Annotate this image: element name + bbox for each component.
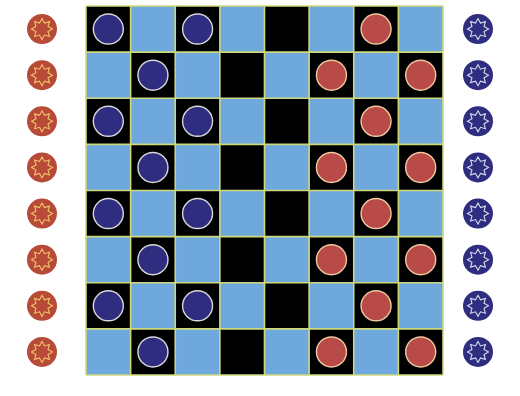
board-square[interactable]: [354, 237, 399, 283]
board-square[interactable]: [175, 237, 220, 283]
board-square[interactable]: [309, 191, 354, 237]
board-square[interactable]: [354, 52, 399, 98]
red-reserve-token[interactable]: [27, 106, 57, 136]
red-piece[interactable]: [316, 152, 346, 182]
board-square[interactable]: [265, 6, 310, 52]
board-square[interactable]: [354, 329, 399, 375]
blue-piece[interactable]: [183, 106, 213, 136]
red-reserve-token[interactable]: [27, 291, 57, 321]
red-reserve-token[interactable]: [27, 245, 57, 275]
game-board: [86, 6, 443, 375]
blue-piece[interactable]: [138, 152, 168, 182]
red-piece[interactable]: [361, 291, 391, 321]
blue-piece[interactable]: [138, 337, 168, 367]
board-square[interactable]: [265, 237, 310, 283]
game-scene: [0, 0, 520, 396]
red-piece[interactable]: [361, 199, 391, 229]
board-square[interactable]: [86, 329, 131, 375]
board-square[interactable]: [175, 52, 220, 98]
board-square[interactable]: [86, 144, 131, 190]
board-square[interactable]: [398, 6, 443, 52]
board-square[interactable]: [86, 237, 131, 283]
red-piece[interactable]: [361, 14, 391, 44]
board-square[interactable]: [309, 6, 354, 52]
red-reserve-token[interactable]: [27, 337, 57, 367]
board-square[interactable]: [86, 52, 131, 98]
red-piece[interactable]: [361, 106, 391, 136]
board-square[interactable]: [220, 283, 265, 329]
blue-piece[interactable]: [93, 199, 123, 229]
red-piece[interactable]: [406, 337, 436, 367]
red-piece[interactable]: [316, 60, 346, 90]
red-piece[interactable]: [316, 337, 346, 367]
board-square[interactable]: [265, 52, 310, 98]
red-piece[interactable]: [406, 245, 436, 275]
board-square[interactable]: [398, 283, 443, 329]
blue-reserve-token[interactable]: [463, 14, 493, 44]
board-square[interactable]: [220, 329, 265, 375]
board-square[interactable]: [175, 144, 220, 190]
blue-reserve-token[interactable]: [463, 291, 493, 321]
board-square[interactable]: [220, 52, 265, 98]
blue-piece[interactable]: [183, 199, 213, 229]
blue-reserve-token[interactable]: [463, 60, 493, 90]
board-square[interactable]: [220, 191, 265, 237]
board-square[interactable]: [398, 98, 443, 144]
blue-piece[interactable]: [183, 291, 213, 321]
board-square[interactable]: [265, 144, 310, 190]
red-piece[interactable]: [406, 60, 436, 90]
red-reserve-token[interactable]: [27, 199, 57, 229]
board-square[interactable]: [265, 98, 310, 144]
board-square[interactable]: [354, 144, 399, 190]
blue-piece[interactable]: [183, 14, 213, 44]
red-reserve-token[interactable]: [27, 14, 57, 44]
blue-piece[interactable]: [138, 245, 168, 275]
board-square[interactable]: [220, 144, 265, 190]
board-square[interactable]: [309, 98, 354, 144]
blue-reserve-token[interactable]: [463, 199, 493, 229]
red-piece[interactable]: [406, 152, 436, 182]
blue-piece[interactable]: [93, 106, 123, 136]
board-square[interactable]: [265, 283, 310, 329]
red-reserve-token[interactable]: [27, 152, 57, 182]
blue-reserve-token[interactable]: [463, 152, 493, 182]
board-square[interactable]: [131, 191, 176, 237]
board-square[interactable]: [220, 237, 265, 283]
board-square[interactable]: [131, 283, 176, 329]
board-square[interactable]: [265, 191, 310, 237]
blue-reserve-token[interactable]: [463, 245, 493, 275]
blue-piece[interactable]: [93, 291, 123, 321]
board-square[interactable]: [220, 6, 265, 52]
board-square[interactable]: [131, 6, 176, 52]
blue-piece[interactable]: [93, 14, 123, 44]
board-square[interactable]: [398, 191, 443, 237]
board-square[interactable]: [220, 98, 265, 144]
board-square[interactable]: [131, 98, 176, 144]
blue-reserve-token[interactable]: [463, 106, 493, 136]
board-square[interactable]: [175, 329, 220, 375]
red-piece[interactable]: [316, 245, 346, 275]
red-reserve-token[interactable]: [27, 60, 57, 90]
board-square[interactable]: [309, 283, 354, 329]
blue-piece[interactable]: [138, 60, 168, 90]
board-square[interactable]: [265, 329, 310, 375]
blue-reserve-token[interactable]: [463, 337, 493, 367]
